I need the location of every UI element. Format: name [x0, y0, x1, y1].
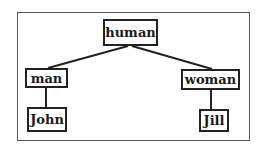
tree-diagram: human man woman John Jill: [0, 0, 264, 152]
node-woman: woman: [181, 69, 240, 90]
node-human: human: [103, 19, 158, 46]
edge-human-man: [48, 46, 128, 68]
edge-human-woman: [132, 46, 212, 69]
node-jill: Jill: [199, 109, 229, 132]
node-john: John: [27, 107, 67, 132]
node-label: man: [31, 71, 63, 86]
node-label: Jill: [204, 113, 225, 128]
node-label: John: [30, 112, 64, 127]
node-label: woman: [185, 72, 237, 87]
node-label: human: [105, 25, 156, 40]
node-man: man: [25, 68, 68, 88]
